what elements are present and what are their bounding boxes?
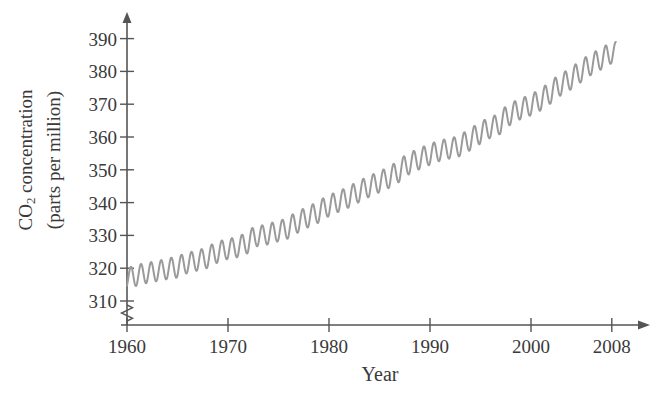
data-curve-layer xyxy=(127,42,616,286)
co2-text: CO xyxy=(15,204,36,230)
y-axis-title-line-1: CO2 concentration xyxy=(14,10,42,310)
axis-layer xyxy=(121,12,650,330)
x-axis-tick-label: 2000 xyxy=(512,337,550,356)
x-axis-tick-label: 1990 xyxy=(411,337,449,356)
x-axis-tick-label: 1980 xyxy=(310,337,348,356)
x-axis-tick-label: 2008 xyxy=(593,337,631,356)
x-axis-tick-label: 1970 xyxy=(209,337,247,356)
x-axis-title: Year xyxy=(362,363,399,385)
x-axis-tick-label: 1960 xyxy=(108,337,146,356)
y-axis-title: CO2 concentration (parts per million) xyxy=(14,10,65,310)
co2-concentration-chart: 310320330340350360370380390 196019701980… xyxy=(0,0,672,397)
y-axis-title-line-2: (parts per million) xyxy=(42,10,65,310)
co2-subscript: 2 xyxy=(23,198,38,204)
concentration-text: concentration xyxy=(15,90,36,198)
